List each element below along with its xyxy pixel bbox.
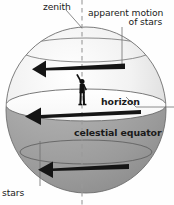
diagram-canvas [0,0,174,205]
label-stars: stars [2,188,24,197]
label-apparent-motion-of-stars: apparent motion of stars [88,8,163,27]
label-horizon: horizon [101,97,140,107]
celestial-sphere-diagram: zenith apparent motion of stars horizon … [0,0,174,205]
label-zenith: zenith [43,2,71,11]
label-celestial-equator: celestial equator [74,128,161,138]
zenith-leader-line [66,10,82,28]
label-apparent-motion-line2: of stars [88,17,163,26]
